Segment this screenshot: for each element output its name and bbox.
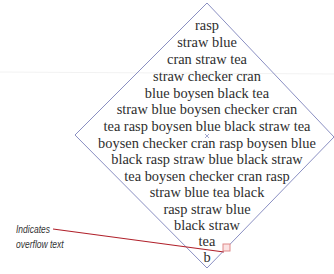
text-line: boysen checker cran rasp boysen blue xyxy=(0,135,334,152)
text-line: tea rasp boysen blue black straw tea xyxy=(0,118,334,135)
text-line: cran straw tea xyxy=(0,51,334,68)
text-line: blue boysen black tea xyxy=(0,85,334,102)
text-line: rasp xyxy=(0,17,334,34)
text-frame-diagram: rasp straw blue cran straw tea straw che… xyxy=(0,0,334,274)
text-line: straw checker cran xyxy=(0,68,334,85)
text-line: straw blue boysen checker cran xyxy=(0,101,334,118)
text-line: black rasp straw blue black straw xyxy=(0,151,334,168)
callout-line-2: overflow text xyxy=(16,237,64,252)
text-line: straw blue tea black xyxy=(0,184,334,201)
text-line: rasp straw blue xyxy=(0,201,334,218)
overflow-callout-label: Indicates overflow text xyxy=(16,222,64,252)
text-line: straw blue xyxy=(0,34,334,51)
callout-line-1: Indicates xyxy=(16,222,64,237)
text-line: tea boysen checker cran rasp xyxy=(0,168,334,185)
